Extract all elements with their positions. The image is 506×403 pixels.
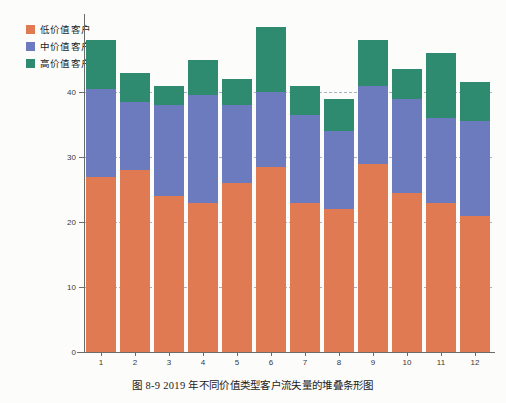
x-axis-tick-mark-12 xyxy=(475,352,476,356)
y-axis-tick-label-20: 20 xyxy=(54,218,76,227)
bar-segment-9-高价值客户[interactable] xyxy=(358,40,389,86)
bar-6[interactable] xyxy=(256,14,287,352)
bar-segment-4-高价值客户[interactable] xyxy=(188,60,219,96)
x-axis-tick-label-9: 9 xyxy=(371,358,375,367)
x-axis-tick-label-6: 6 xyxy=(269,358,273,367)
bar-segment-7-低价值客户[interactable] xyxy=(290,203,321,353)
legend-item-mid[interactable]: 中价值客户 xyxy=(26,39,91,53)
bar-segment-3-中价值客户[interactable] xyxy=(154,105,185,196)
y-axis-tick-mark-30 xyxy=(79,157,84,158)
bar-segment-3-高价值客户[interactable] xyxy=(154,86,185,106)
y-axis-tick-mark-10 xyxy=(79,287,84,288)
bar-segment-10-中价值客户[interactable] xyxy=(392,99,423,193)
bar-segment-6-高价值客户[interactable] xyxy=(256,27,287,92)
x-axis-tick-label-8: 8 xyxy=(337,358,341,367)
x-axis-tick-label-2: 2 xyxy=(133,358,137,367)
x-axis-tick-label-12: 12 xyxy=(471,358,480,367)
bar-segment-7-中价值客户[interactable] xyxy=(290,115,321,203)
bar-segment-5-高价值客户[interactable] xyxy=(222,79,253,105)
bar-segment-3-低价值客户[interactable] xyxy=(154,196,185,352)
bar-segment-2-中价值客户[interactable] xyxy=(120,102,151,170)
bar-segment-4-低价值客户[interactable] xyxy=(188,203,219,353)
x-axis-tick-label-11: 11 xyxy=(437,358,445,367)
y-axis-line xyxy=(84,14,85,353)
bar-segment-1-低价值客户[interactable] xyxy=(86,177,117,353)
bar-segment-8-中价值客户[interactable] xyxy=(324,131,355,209)
bar-5[interactable] xyxy=(222,14,253,352)
x-axis-tick-mark-8 xyxy=(339,352,340,356)
x-axis-tick-label-3: 3 xyxy=(167,358,171,367)
bar-segment-5-中价值客户[interactable] xyxy=(222,105,253,183)
x-axis-tick-mark-9 xyxy=(373,352,374,356)
y-axis-tick-mark-0 xyxy=(79,352,84,353)
y-axis-tick-label-10: 10 xyxy=(54,283,76,292)
x-axis-tick-mark-4 xyxy=(203,352,204,356)
bar-segment-5-低价值客户[interactable] xyxy=(222,183,253,352)
y-axis-tick-label-30: 30 xyxy=(54,153,76,162)
bar-segment-11-低价值客户[interactable] xyxy=(426,203,457,353)
legend-swatch-high xyxy=(26,59,35,68)
x-axis-tick-mark-11 xyxy=(441,352,442,356)
chart-legend: 低价值客户中价值客户高价值客户 xyxy=(26,22,91,70)
legend-item-high[interactable]: 高价值客户 xyxy=(26,56,91,70)
bar-12[interactable] xyxy=(460,14,491,352)
legend-item-low[interactable]: 低价值客户 xyxy=(26,22,91,36)
x-axis-tick-mark-1 xyxy=(101,352,102,356)
bar-segment-9-中价值客户[interactable] xyxy=(358,86,389,164)
bar-segment-12-高价值客户[interactable] xyxy=(460,82,491,121)
bar-2[interactable] xyxy=(120,14,151,352)
bar-9[interactable] xyxy=(358,14,389,352)
bar-segment-6-中价值客户[interactable] xyxy=(256,92,287,167)
bar-segment-12-中价值客户[interactable] xyxy=(460,121,491,215)
bar-segment-6-低价值客户[interactable] xyxy=(256,167,287,352)
x-axis-tick-label-1: 1 xyxy=(99,358,103,367)
bar-segment-7-高价值客户[interactable] xyxy=(290,86,321,115)
bar-3[interactable] xyxy=(154,14,185,352)
x-axis-tick-mark-3 xyxy=(169,352,170,356)
bar-segment-9-低价值客户[interactable] xyxy=(358,164,389,353)
y-axis-tick-label-0: 0 xyxy=(54,348,76,357)
bar-8[interactable] xyxy=(324,14,355,352)
bar-segment-4-中价值客户[interactable] xyxy=(188,95,219,202)
bar-segment-2-低价值客户[interactable] xyxy=(120,170,151,352)
bar-segment-10-低价值客户[interactable] xyxy=(392,193,423,352)
x-axis-tick-mark-10 xyxy=(407,352,408,356)
x-axis-tick-label-4: 4 xyxy=(201,358,205,367)
bar-segment-12-低价值客户[interactable] xyxy=(460,216,491,353)
x-axis-tick-mark-5 xyxy=(237,352,238,356)
bar-segment-8-低价值客户[interactable] xyxy=(324,209,355,352)
bar-10[interactable] xyxy=(392,14,423,352)
x-axis-line xyxy=(77,352,495,353)
x-axis-tick-mark-6 xyxy=(271,352,272,356)
y-axis-tick-mark-20 xyxy=(79,222,84,223)
x-axis-tick-label-7: 7 xyxy=(303,358,307,367)
plot-area xyxy=(84,14,492,352)
bar-segment-2-高价值客户[interactable] xyxy=(120,73,151,102)
bar-1[interactable] xyxy=(86,14,117,352)
y-axis-tick-mark-40 xyxy=(79,92,84,93)
bar-segment-8-高价值客户[interactable] xyxy=(324,99,355,132)
bar-7[interactable] xyxy=(290,14,321,352)
x-axis-tick-label-10: 10 xyxy=(403,358,412,367)
figure: 低价值客户中价值客户高价值客户 图 8-9 2019 年不同价值类型客户流失量的… xyxy=(0,0,506,403)
bar-4[interactable] xyxy=(188,14,219,352)
y-axis-tick-label-40: 40 xyxy=(54,88,76,97)
bar-segment-11-中价值客户[interactable] xyxy=(426,118,457,203)
figure-caption: 图 8-9 2019 年不同价值类型客户流失量的堆叠条形图 xyxy=(0,377,506,392)
legend-swatch-mid xyxy=(26,42,35,51)
x-axis-tick-mark-7 xyxy=(305,352,306,356)
legend-swatch-low xyxy=(26,25,35,34)
bar-11[interactable] xyxy=(426,14,457,352)
bar-segment-1-中价值客户[interactable] xyxy=(86,89,117,177)
x-axis-tick-label-5: 5 xyxy=(235,358,239,367)
bar-segment-10-高价值客户[interactable] xyxy=(392,69,423,98)
bar-segment-11-高价值客户[interactable] xyxy=(426,53,457,118)
x-axis-tick-mark-2 xyxy=(135,352,136,356)
bar-segment-1-高价值客户[interactable] xyxy=(86,40,117,89)
